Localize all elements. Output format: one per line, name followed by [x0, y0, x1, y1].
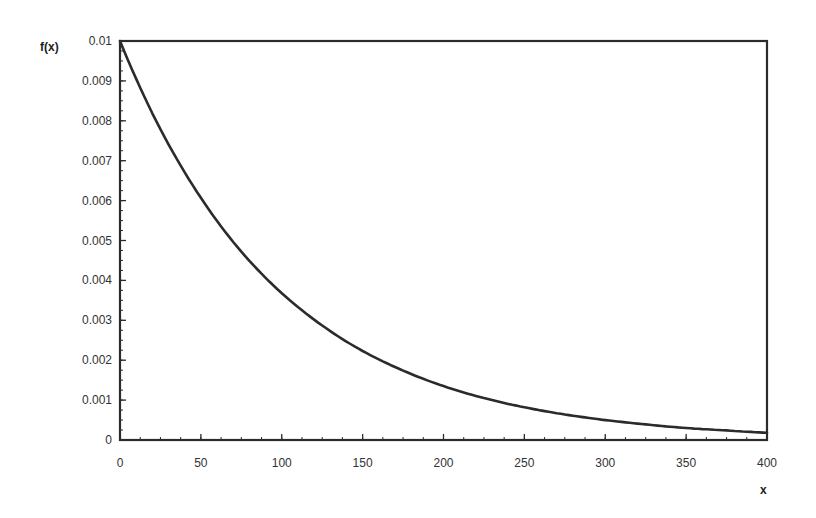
y-tick-label: 0	[105, 433, 112, 447]
x-tick-label: 400	[757, 456, 777, 470]
x-tick-label: 200	[433, 456, 453, 470]
x-tick-label: 0	[117, 456, 124, 470]
x-axis-label: x	[760, 483, 767, 497]
y-axis-label: f(x)	[40, 40, 59, 54]
y-tick-label: 0.006	[82, 194, 112, 208]
x-tick-label: 50	[194, 456, 208, 470]
y-tick-label: 0.004	[82, 273, 112, 287]
y-tick-labels: 00.0010.0020.0030.0040.0050.0060.0070.00…	[82, 34, 112, 447]
x-tick-label: 150	[353, 456, 373, 470]
y-tick-label: 0.001	[82, 393, 112, 407]
y-tick-label: 0.008	[82, 114, 112, 128]
x-tick-label: 250	[514, 456, 534, 470]
major-ticks	[120, 41, 767, 440]
y-tick-label: 0.01	[89, 34, 113, 48]
data-curve	[120, 41, 767, 433]
x-tick-labels: 050100150200250300350400	[117, 456, 778, 470]
y-tick-label: 0.002	[82, 353, 112, 367]
y-tick-label: 0.007	[82, 154, 112, 168]
y-tick-label: 0.009	[82, 74, 112, 88]
plot-frame	[120, 41, 767, 440]
minor-ticks	[120, 41, 767, 440]
chart: 00.0010.0020.0030.0040.0050.0060.0070.00…	[0, 0, 816, 518]
y-tick-label: 0.005	[82, 234, 112, 248]
x-tick-label: 300	[595, 456, 615, 470]
x-tick-label: 350	[676, 456, 696, 470]
y-tick-label: 0.003	[82, 313, 112, 327]
x-tick-label: 100	[272, 456, 292, 470]
